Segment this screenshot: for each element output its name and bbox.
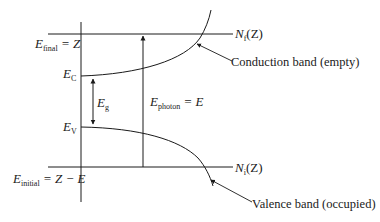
- band-diagram-canvas: [0, 0, 380, 222]
- n-i-label: Ni(Z): [235, 161, 263, 177]
- conduction-band-annotation: Conduction band (empty): [231, 56, 359, 69]
- e-initial-label: Einitial = Z − E: [13, 172, 85, 188]
- e-photon-label: Ephoton = E: [150, 95, 203, 111]
- valence-band-curve: [81, 127, 213, 186]
- e-g-label: Eg: [97, 96, 109, 112]
- valence-band-annotation: Valence band (occupied): [252, 198, 376, 211]
- conduction-leader-line: [197, 44, 232, 61]
- e-final-label: Efinal = Z: [35, 37, 80, 53]
- conduction-band-curve: [81, 10, 211, 76]
- e-c-label: EC: [63, 67, 76, 83]
- n-f-label: Nf(Z): [235, 27, 263, 43]
- e-v-label: EV: [63, 120, 77, 136]
- valence-leader-line: [211, 180, 252, 202]
